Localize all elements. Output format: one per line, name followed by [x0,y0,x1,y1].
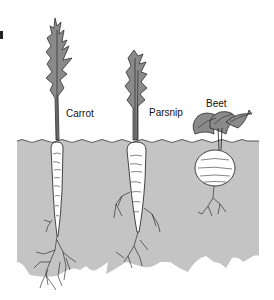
parsnip-foliage [125,50,147,140]
beet-label: Beet [206,98,227,109]
diagram-illustration: Carrot Parsnip [0,0,274,300]
parsnip-label: Parsnip [149,107,183,118]
carrot-foliage [46,18,72,140]
beet-root [195,150,235,186]
carrot-label: Carrot [66,108,94,119]
